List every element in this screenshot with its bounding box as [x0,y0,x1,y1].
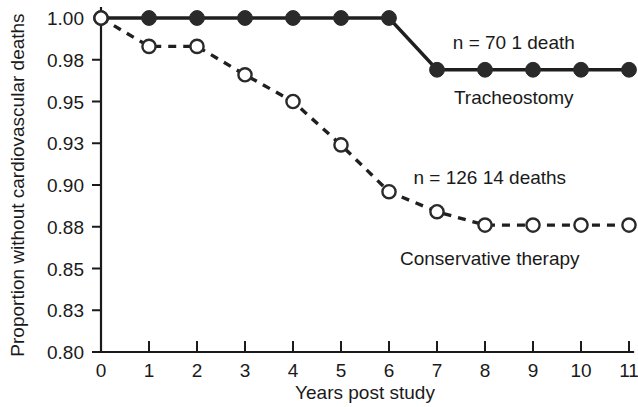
x-tick-label: 3 [240,360,251,381]
conservative-stats: n = 126 14 deaths [413,167,566,188]
x-axis-title: Years post study [295,382,435,403]
y-tick-label: 0.93 [47,133,84,154]
x-tick-label: 9 [528,360,539,381]
data-point-marker [190,11,205,26]
data-point-marker [574,62,589,77]
data-point-marker [142,40,155,53]
x-tick-label: 11 [619,360,638,381]
tracheostomy-stats: n = 70 1 death [453,32,575,53]
x-tick-label: 10 [570,360,591,381]
data-point-marker [382,185,395,198]
y-axis-ticks: 1.000.980.950.930.900.880.850.830.80 [47,8,101,363]
data-point-marker [526,218,539,231]
y-tick-label: 0.88 [47,217,84,238]
data-point-marker [382,11,397,26]
chart-container: 1.000.980.950.930.900.880.850.830.80 012… [0,0,638,407]
y-tick-label: 0.80 [47,342,84,363]
y-tick-label: 0.85 [47,259,84,280]
data-point-marker [478,62,493,77]
x-tick-label: 0 [96,360,107,381]
data-point-marker [334,138,347,151]
data-point-marker [430,205,443,218]
data-point-marker [286,11,301,26]
y-tick-label: 0.95 [47,92,84,113]
y-tick-label: 0.83 [47,300,84,321]
x-tick-label: 4 [288,360,299,381]
data-point-marker [622,62,637,77]
x-tick-label: 8 [480,360,491,381]
y-tick-label: 0.98 [47,50,84,71]
tracheostomy-label: Tracheostomy [454,87,574,108]
data-point-marker [286,95,299,108]
data-point-marker [478,218,491,231]
data-point-marker [190,40,203,53]
chart-plot-area: 1.000.980.950.930.900.880.850.830.80 012… [0,0,638,407]
y-tick-label: 0.90 [47,175,84,196]
y-axis-title: Proportion without cardiovascular deaths [7,13,28,356]
data-point-marker [526,62,541,77]
x-tick-label: 2 [192,360,203,381]
data-point-marker [94,11,107,24]
x-tick-label: 6 [384,360,395,381]
x-tick-label: 5 [336,360,347,381]
x-axis-ticks: 01234567891011 [96,341,638,381]
data-point-marker [142,11,157,26]
data-point-marker [622,218,635,231]
x-tick-label: 1 [144,360,155,381]
data-point-marker [334,11,349,26]
data-point-marker [238,11,253,26]
data-point-marker [238,68,251,81]
data-point-marker [430,62,445,77]
conservative-label: Conservative therapy [400,248,580,269]
y-tick-label: 1.00 [47,8,84,29]
x-tick-label: 7 [432,360,443,381]
data-point-marker [574,218,587,231]
